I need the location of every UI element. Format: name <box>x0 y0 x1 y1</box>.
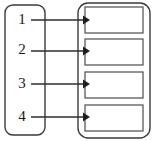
source-label-1: 1 <box>18 11 26 27</box>
target-box-2[interactable] <box>85 39 143 65</box>
source-label-2: 2 <box>18 41 26 57</box>
diagram-svg: 1 2 3 4 <box>0 0 156 141</box>
target-box-1[interactable] <box>85 7 143 33</box>
diagram-canvas: 1 2 3 4 <box>0 0 156 141</box>
source-label-3: 3 <box>18 75 26 91</box>
source-label-4: 4 <box>18 108 26 124</box>
target-box-3[interactable] <box>85 72 143 98</box>
target-box-4[interactable] <box>85 105 143 131</box>
